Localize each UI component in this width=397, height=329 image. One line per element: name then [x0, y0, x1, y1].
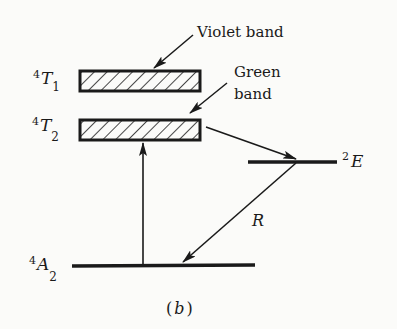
- level-4t2-subscript: 2: [51, 130, 59, 144]
- level-4t2: 4T2: [32, 115, 200, 144]
- level-2e-superscript: 2: [342, 150, 349, 163]
- r-emission-arrow: [183, 163, 296, 262]
- level-4t1: 4T1: [33, 68, 200, 94]
- level-2e: 2E: [248, 150, 364, 171]
- level-2e-symbol: E: [350, 151, 364, 171]
- level-4t1-superscript: 4: [33, 68, 40, 81]
- level-4a2-line: [72, 265, 255, 266]
- green-band-label-line1: Green: [234, 63, 281, 81]
- green-band: [80, 120, 200, 140]
- level-4t2-superscript: 4: [32, 115, 39, 128]
- green-band-label-line2: band: [234, 85, 272, 103]
- violet-band: [80, 71, 200, 91]
- level-4a2-subscript: 2: [49, 270, 57, 284]
- svg-text:4T2: 4T2: [32, 115, 59, 144]
- r-emission-label: R: [251, 211, 264, 230]
- svg-text:4A2: 4A2: [29, 254, 57, 284]
- violet-band-pointer-arrow: [154, 35, 193, 68]
- nonradiative-decay-arrow: [206, 127, 296, 159]
- violet-band-label: Violet band: [196, 23, 284, 41]
- level-4t1-subscript: 1: [52, 80, 60, 94]
- level-4a2-superscript: 4: [29, 254, 36, 267]
- level-4a2: 4A2: [29, 254, 255, 284]
- svg-text:2E: 2E: [342, 150, 364, 171]
- energy-level-diagram: 4T1 4T2 Violet band Green band 2E 4A2 R …: [0, 0, 397, 329]
- figure-caption: (b): [166, 299, 193, 318]
- level-4a2-symbol: A: [35, 254, 49, 274]
- figure-caption-letter: b: [174, 299, 184, 318]
- svg-text:4T1: 4T1: [33, 68, 60, 94]
